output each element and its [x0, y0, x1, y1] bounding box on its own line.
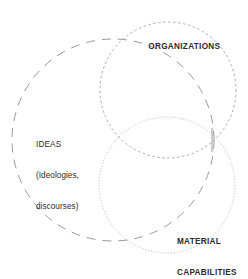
label-ideas-title: IDEAS [36, 140, 79, 150]
label-ideas-subtitle-line-1: (Ideologies, [36, 171, 79, 181]
label-organizations: ORGANIZATIONS [138, 32, 220, 63]
label-ideas-subtitle-line-2: discourses) [36, 202, 79, 212]
label-ideas: IDEAS (Ideologies, discourses) [36, 120, 79, 232]
label-material-line-1: MATERIAL [177, 237, 237, 247]
label-material-capabilities: MATERIAL CAPABILITIES [177, 217, 237, 279]
label-material-line-2: CAPABILITIES [177, 268, 237, 278]
label-organizations-text: ORGANIZATIONS [148, 42, 220, 51]
